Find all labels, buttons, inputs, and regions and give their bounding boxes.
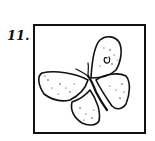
- butterfly-illustration: [0, 0, 155, 141]
- lower-right-wing: [96, 74, 129, 109]
- upper-left-wing: [39, 72, 88, 101]
- wing-eyespot: [104, 57, 110, 63]
- lower-left-wing: [71, 90, 99, 125]
- wing-stipple: [44, 47, 124, 120]
